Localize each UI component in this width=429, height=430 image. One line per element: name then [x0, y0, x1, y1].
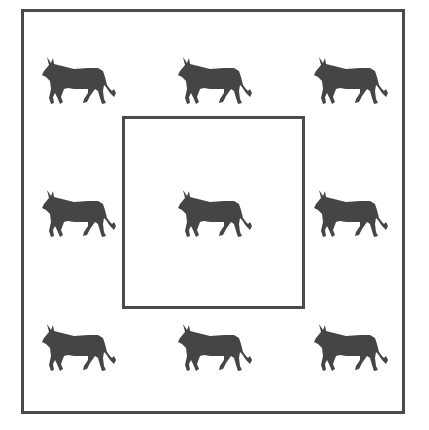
bull-icon — [40, 320, 118, 374]
bull-icon — [312, 320, 390, 374]
bull-icon — [176, 53, 254, 107]
bull-icon — [176, 320, 254, 374]
bull-icon — [40, 186, 118, 240]
bull-icon — [40, 53, 118, 107]
bull-icon — [176, 186, 254, 240]
bull-icon — [312, 53, 390, 107]
bull-icon — [312, 186, 390, 240]
